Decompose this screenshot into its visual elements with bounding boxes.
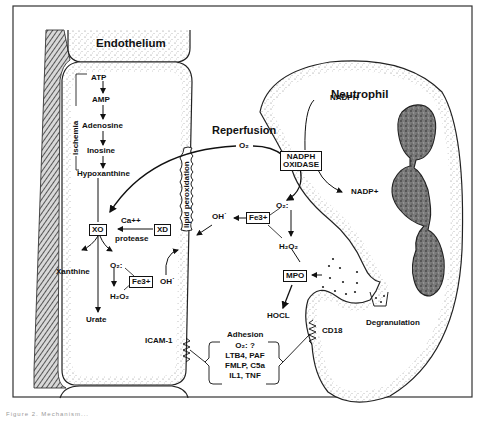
adhesion-mediators: O₂: ? LTB4, PAF FMLP, C5a IL1, TNF xyxy=(214,341,276,381)
calcium-label: Ca++ xyxy=(121,216,141,225)
inosine-label: Inosine xyxy=(87,146,115,155)
xanthine-oxidase-box: XO xyxy=(89,224,107,236)
adhesion-mediator-line: FMLP, C5a xyxy=(214,361,276,371)
nadph-label: NADPH xyxy=(330,93,358,102)
hypoxanthine-label: Hypoxanthine xyxy=(77,169,130,178)
xanthine-label: Xanthine xyxy=(56,267,90,276)
reperfusion-injury-diagram: Endothelium Neutrophil Reperfusion Ische… xyxy=(0,0,483,421)
fe3-box-neutrophil: Fe3+ xyxy=(246,212,270,224)
lipid-peroxidation-label: lipid peroxidation xyxy=(182,161,191,228)
protease-label: protease xyxy=(115,234,148,243)
adhesion-title: Adhesion xyxy=(227,330,263,339)
h2o2-neutrophil-label: H₂O₂ xyxy=(279,242,298,251)
hocl-label: HOCL xyxy=(267,311,290,320)
fe3-box-endothelial: Fe3+ xyxy=(129,276,153,288)
nadph-oxidase-line2: OXIDASE xyxy=(283,161,319,169)
superoxide-neutrophil-label: O₂: xyxy=(276,201,288,210)
superoxide-endothelial-label: O₂: xyxy=(110,261,122,270)
nadph-oxidase-box: NADPH OXIDASE xyxy=(280,151,322,171)
reperfusion-oxygen-label: O₂ xyxy=(239,141,249,150)
hydroxyl-radical-right-label: OH˙ xyxy=(212,212,227,221)
endothelium-title: Endothelium xyxy=(96,37,166,50)
myeloperoxidase-box: MPO xyxy=(283,270,307,282)
degranulation-label: Degranulation xyxy=(366,318,420,327)
icam-1-label: ICAM-1 xyxy=(145,336,173,345)
figure-caption: Figure 2. Mechanism... xyxy=(6,411,89,417)
h2o2-endothelial-label: H₂O₂ xyxy=(110,292,129,301)
adhesion-mediator-line: O₂: ? xyxy=(214,341,276,351)
adenosine-label: Adenosine xyxy=(82,121,123,130)
nadp-label: NADP+ xyxy=(351,187,378,196)
adhesion-mediator-line: LTB4, PAF xyxy=(214,351,276,361)
urate-label: Urate xyxy=(86,315,106,324)
ischemia-label: Ischemia xyxy=(71,121,80,155)
reperfusion-title: Reperfusion xyxy=(212,124,276,137)
amp-label: AMP xyxy=(92,95,110,104)
granules xyxy=(322,258,358,295)
cd18-label: CD18 xyxy=(322,326,342,335)
adhesion-mediator-line: IL1, TNF xyxy=(214,371,276,381)
hydroxyl-radical-left-label: OH˙ xyxy=(160,277,175,286)
xanthine-dehydrogenase-box: XD xyxy=(154,224,171,236)
atp-label: ATP xyxy=(91,73,106,82)
